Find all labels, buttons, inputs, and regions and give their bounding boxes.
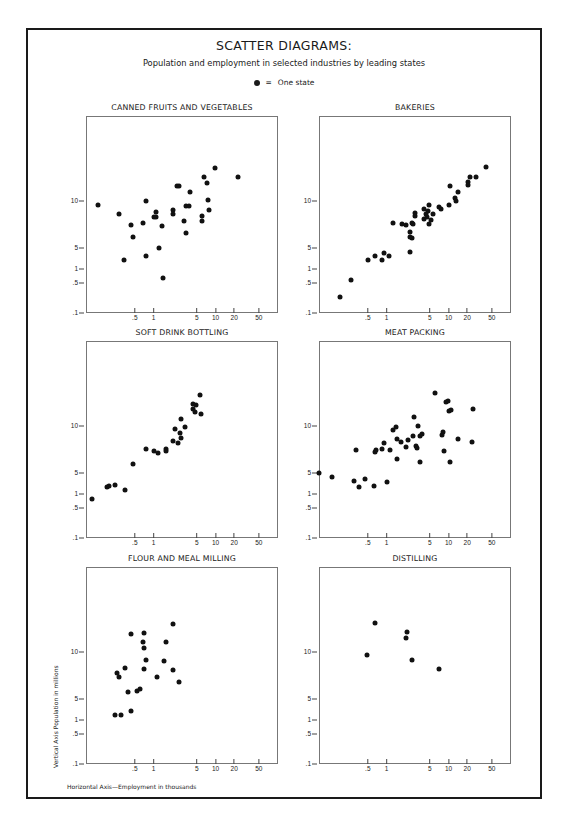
- data-point: [170, 438, 175, 443]
- data-point: [405, 630, 410, 635]
- plot-area: [319, 567, 511, 764]
- data-point: [164, 449, 169, 454]
- x-tick-label: .5: [132, 538, 137, 546]
- data-point: [453, 198, 458, 203]
- data-point: [205, 198, 210, 203]
- x-tick-label: .5: [365, 538, 370, 546]
- data-point: [390, 220, 395, 225]
- x-tick-label: 50: [488, 313, 495, 321]
- data-point: [404, 635, 409, 640]
- data-point: [202, 175, 207, 180]
- data-point: [432, 391, 437, 396]
- data-point: [406, 438, 411, 443]
- data-point: [128, 632, 133, 637]
- x-tick-label: .5: [132, 313, 137, 321]
- data-point: [382, 440, 387, 445]
- data-point: [410, 235, 415, 240]
- data-point: [106, 484, 111, 489]
- y-tick-label: 10: [304, 197, 317, 204]
- data-point: [455, 189, 460, 194]
- data-point: [213, 166, 218, 171]
- data-point: [473, 174, 478, 179]
- x-tick-label: 1: [385, 538, 389, 546]
- y-tick-label: .1: [73, 760, 84, 767]
- data-point: [117, 675, 122, 680]
- y-tick-label: .5: [306, 504, 317, 511]
- y-tick-label: .5: [73, 279, 84, 286]
- data-point: [113, 712, 118, 717]
- data-point: [179, 417, 184, 422]
- y-tick-label: 1: [307, 265, 317, 272]
- data-point: [177, 183, 182, 188]
- y-tick-label: 10: [71, 648, 84, 655]
- data-point: [384, 479, 389, 484]
- x-tick-label: .5: [132, 764, 137, 772]
- panel-title: SOFT DRINK BOTTLING: [86, 328, 278, 337]
- vertical-axis-label: Vertical Axis Population in millions: [52, 665, 59, 768]
- data-point: [170, 621, 175, 626]
- data-point: [470, 407, 475, 412]
- panel-title: DISTILLING: [319, 554, 511, 563]
- data-point: [365, 258, 370, 263]
- x-tick-label: 10: [212, 313, 219, 321]
- y-tick-label: 5: [74, 469, 84, 476]
- x-tick-label: 50: [255, 313, 262, 321]
- data-point: [194, 403, 199, 408]
- data-point: [399, 439, 404, 444]
- y-tick-label: .1: [73, 534, 84, 541]
- data-point: [430, 212, 435, 217]
- data-point: [141, 639, 146, 644]
- data-point: [128, 223, 133, 228]
- data-point: [117, 212, 122, 217]
- y-tick-label: 5: [307, 469, 317, 476]
- data-point: [329, 475, 334, 480]
- data-point: [200, 218, 205, 223]
- data-point: [404, 223, 409, 228]
- data-point: [126, 690, 131, 695]
- data-point: [138, 686, 143, 691]
- data-point: [142, 631, 147, 636]
- data-point: [455, 437, 460, 442]
- data-point: [141, 666, 146, 671]
- panel-title: BAKERIES: [319, 103, 511, 112]
- x-tick-label: 5: [428, 538, 432, 546]
- data-point: [130, 461, 135, 466]
- x-tick-label: 20: [464, 764, 471, 772]
- x-tick-label: 50: [255, 764, 262, 772]
- data-point: [144, 447, 149, 452]
- plot-area: [86, 116, 278, 313]
- y-tick-label: 10: [71, 197, 84, 204]
- plot-area: [86, 567, 278, 764]
- data-point: [140, 220, 145, 225]
- data-point: [131, 234, 136, 239]
- data-point: [193, 409, 198, 414]
- x-tick-label: 5: [195, 764, 199, 772]
- data-point: [143, 198, 148, 203]
- data-point: [123, 665, 128, 670]
- data-point: [413, 213, 418, 218]
- legend-label: One state: [278, 78, 315, 87]
- data-point: [379, 257, 384, 262]
- data-point: [381, 250, 386, 255]
- data-point: [89, 497, 94, 502]
- y-tick-label: 5: [74, 244, 84, 251]
- data-point: [353, 448, 358, 453]
- data-point: [204, 181, 209, 186]
- horizontal-axis-label: Horizontal Axis—Employment in thousands: [67, 783, 196, 790]
- data-point: [395, 456, 400, 461]
- page-subtitle: Population and employment in selected in…: [0, 58, 568, 68]
- data-point: [388, 448, 393, 453]
- data-point: [157, 245, 162, 250]
- y-tick-label: 1: [74, 716, 84, 723]
- x-tick-label: .5: [365, 313, 370, 321]
- data-point: [235, 174, 240, 179]
- y-tick-label: 5: [307, 695, 317, 702]
- data-point: [470, 439, 475, 444]
- x-tick-label: 10: [212, 764, 219, 772]
- data-point: [119, 712, 124, 717]
- x-tick-label: 20: [464, 313, 471, 321]
- x-tick-label: 50: [255, 538, 262, 546]
- data-point: [412, 415, 417, 420]
- data-point: [372, 484, 377, 489]
- data-point: [379, 447, 384, 452]
